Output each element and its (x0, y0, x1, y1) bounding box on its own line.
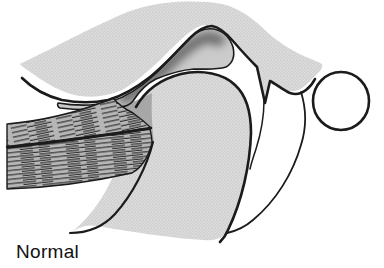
tmj-sagittal-illustration (0, 0, 384, 268)
ear-canal-circle (313, 72, 369, 130)
figure-caption: Normal (16, 241, 79, 263)
tmj-normal-figure: Normal (0, 0, 384, 268)
